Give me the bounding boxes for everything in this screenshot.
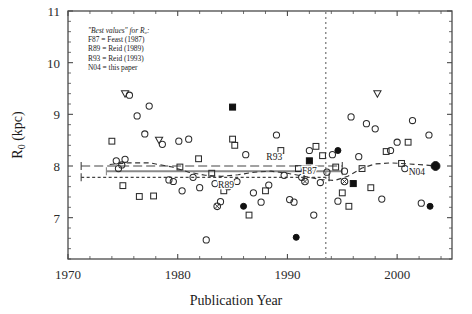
data-point-circle-open [113, 158, 119, 164]
data-point-triangle-open [121, 91, 128, 98]
data-point-circle-open [418, 200, 424, 206]
data-point-circle-open [250, 190, 256, 196]
annotation-label-R93: R93 [266, 152, 282, 162]
data-point-circle-open [363, 121, 369, 127]
data-point-circle-open [335, 198, 341, 204]
annotation-label-R89: R89 [218, 180, 234, 190]
data-point-square-open [313, 143, 319, 149]
data-point-circle-open [122, 156, 128, 162]
data-point-circle-open [324, 169, 330, 175]
data-point-circle-open [197, 185, 203, 191]
data-point-square-filled [350, 181, 356, 187]
data-point-circle-open [394, 139, 400, 145]
data-point-circle-open [409, 117, 415, 123]
legend-entry-2: R93 = Reid (1993) [88, 54, 144, 63]
data-point-square-open [263, 188, 269, 194]
y-axis-title: R0 (kpc) [10, 111, 27, 159]
data-point-circle-open [217, 199, 223, 205]
data-point-square-open [368, 185, 374, 191]
data-point-circle-open [203, 237, 209, 243]
legend-entry-3: N04 = this paper [88, 63, 138, 72]
data-point-circle-open [234, 178, 240, 184]
data-point-circle-open [317, 179, 323, 185]
y-tick-label: 8 [54, 159, 61, 174]
annotation-label-N04: N04 [409, 167, 426, 177]
data-point-circle-open [186, 136, 192, 142]
data-point-square-open [232, 142, 238, 148]
data-point-circle-open [134, 113, 140, 119]
data-point-circle-open [306, 147, 312, 153]
legend-entry-0: F87 = Feast (1987) [88, 35, 145, 44]
data-point-circle-open [348, 114, 354, 120]
data-point-n04-final [431, 162, 440, 171]
scatter-plot: 78910111970198019902000Publication YearR… [0, 0, 472, 314]
data-point-circle-open [146, 103, 152, 109]
data-point-circle-open [329, 152, 335, 158]
x-axis-title: Publication Year [190, 293, 283, 308]
data-point-square-filled [306, 158, 312, 164]
annotation-label-F87: F87 [302, 166, 317, 176]
data-point-circle-filled [427, 203, 433, 209]
data-point-circle-filled [241, 203, 247, 209]
data-point-circle-open [372, 126, 378, 132]
data-point-circle-open [142, 131, 148, 137]
figure-container: 78910111970198019902000Publication YearR… [0, 0, 472, 314]
data-point-square-open [320, 153, 326, 159]
data-point-square-open [230, 136, 236, 142]
data-point-triangle-open [374, 91, 381, 98]
data-point-square-open [151, 193, 157, 199]
y-tick-label: 11 [47, 4, 60, 19]
data-point-square-open [246, 212, 252, 218]
data-point-circle-open [179, 188, 185, 194]
data-point-square-open [346, 203, 352, 209]
data-point-square-open [339, 190, 345, 196]
data-point-circle-open [311, 212, 317, 218]
data-point-circle-filled [293, 234, 299, 240]
data-point-circle-open [281, 172, 287, 178]
data-point-circle-open [243, 152, 249, 158]
data-point-square-open [196, 156, 202, 162]
data-point-circle-open [176, 138, 182, 144]
data-point-triangle-open [155, 137, 162, 144]
x-tick-label: 1990 [274, 267, 300, 282]
legend-entry-1: R89 = Reid (1989) [88, 44, 144, 53]
data-point-circle-filled [335, 148, 341, 154]
data-point-square-filled [230, 104, 236, 110]
y-tick-label: 7 [54, 211, 61, 226]
data-point-square-open [120, 183, 126, 189]
y-tick-label: 10 [47, 56, 60, 71]
data-point-square-open [405, 139, 411, 145]
data-point-square-open [136, 194, 142, 200]
x-tick-label: 1980 [165, 267, 191, 282]
data-point-circle-open [273, 132, 279, 138]
y-tick-label: 9 [54, 107, 61, 122]
legend-header: "Best values" for R₀: [88, 26, 150, 35]
x-tick-label: 2000 [384, 267, 410, 282]
data-point-circle-open [379, 196, 385, 202]
data-point-circle-open [258, 199, 264, 205]
data-point-circle-open [266, 182, 272, 188]
data-point-circle-open [426, 132, 432, 138]
data-point-circle-open [356, 154, 362, 160]
data-point-square-open [333, 164, 339, 170]
x-tick-label: 1970 [55, 267, 81, 282]
data-point-square-open [109, 138, 115, 144]
